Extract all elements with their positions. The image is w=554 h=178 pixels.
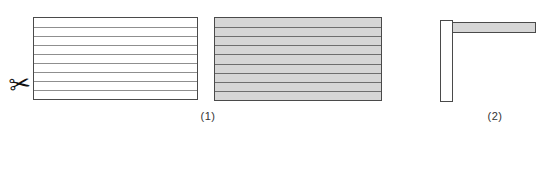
lined-rectangle-shaded [214, 17, 382, 101]
strip-divider-line [215, 82, 381, 83]
strip-divider-line [34, 81, 197, 82]
strip-divider-line [34, 36, 197, 37]
lined-rectangle-unshaded [33, 17, 198, 100]
scissors-icon: ✂ [7, 70, 32, 99]
strip-divider-line [215, 54, 381, 55]
strip-divider-line [34, 63, 197, 64]
strip-divider-line [215, 64, 381, 65]
figure-1-label: (1) [201, 110, 216, 122]
strip-divider-line [34, 72, 197, 73]
strip-divider-line [215, 91, 381, 92]
strip-divider-line [215, 36, 381, 37]
vertical-strip-unshaded [440, 20, 453, 102]
strip-divider-line [34, 90, 197, 91]
horizontal-strip-shaded [452, 22, 536, 33]
strip-divider-line [215, 45, 381, 46]
strip-divider-line [34, 54, 197, 55]
strip-divider-line [215, 73, 381, 74]
diagram-canvas: ✂ (1) (2) [0, 0, 554, 178]
strip-divider-line [34, 45, 197, 46]
strip-divider-line [215, 27, 381, 28]
strip-divider-line [34, 27, 197, 28]
figure-2-label: (2) [488, 110, 503, 122]
